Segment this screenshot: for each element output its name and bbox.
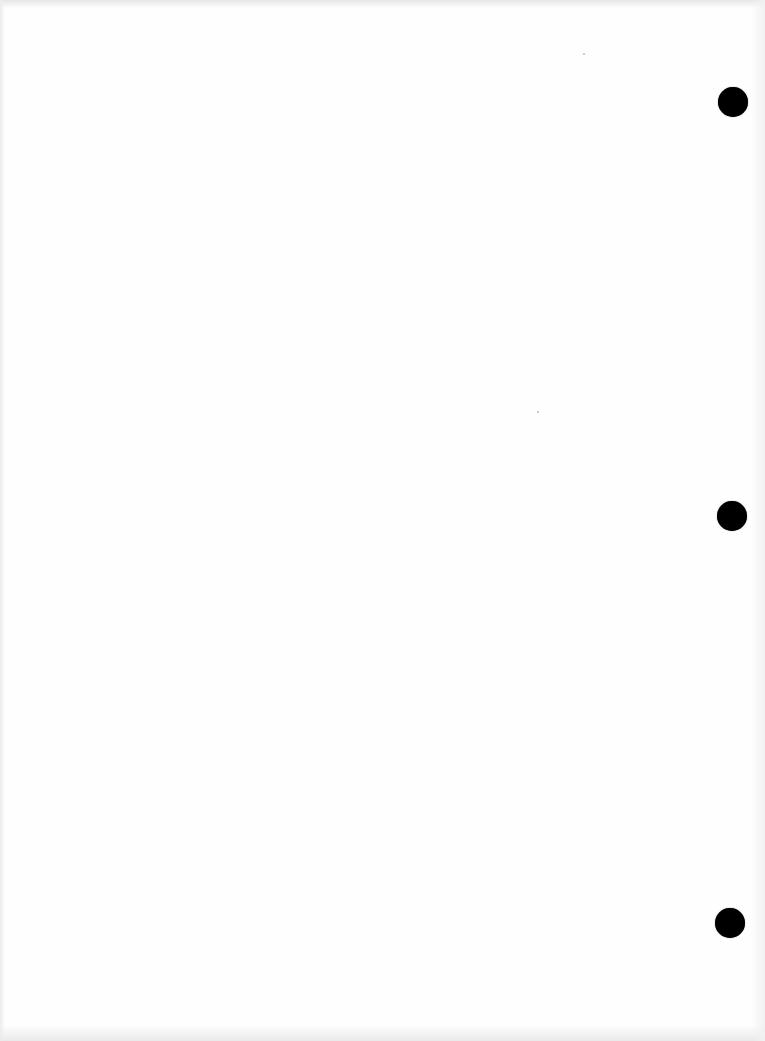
blank-page	[0, 0, 765, 1041]
punch-hole-bottom	[715, 908, 745, 938]
scan-edge-right	[751, 0, 765, 1041]
scan-speck	[537, 411, 539, 413]
scan-edge-bottom	[0, 1025, 765, 1041]
scan-edge-top	[0, 0, 765, 8]
scan-speck	[583, 53, 585, 55]
punch-hole-middle	[717, 501, 747, 531]
punch-hole-top	[718, 87, 748, 117]
scan-edge-left	[0, 0, 5, 1041]
